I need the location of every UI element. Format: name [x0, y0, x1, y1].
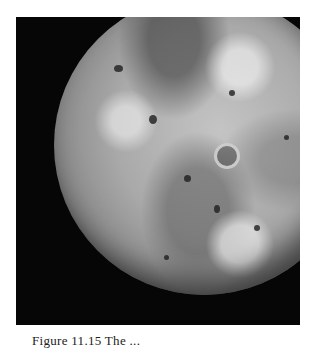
volcanic-spot — [284, 135, 289, 140]
io-moon-image — [54, 17, 300, 295]
figure-photo — [16, 17, 300, 325]
volcanic-spot — [214, 205, 220, 213]
figure-caption: Figure 11.15 The ... — [32, 333, 302, 349]
volcanic-spot — [184, 175, 191, 182]
volcanic-spot — [114, 65, 123, 72]
volcanic-spot — [149, 115, 157, 124]
volcanic-spot — [229, 90, 235, 96]
volcanic-spot — [164, 255, 169, 260]
volcanic-spot — [254, 225, 260, 231]
volcano-crater — [214, 143, 240, 169]
